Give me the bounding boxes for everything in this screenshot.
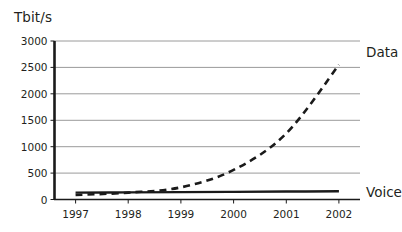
series-label-voice: Voice	[366, 184, 402, 200]
gridlines	[51, 41, 361, 200]
chart-plot-area	[0, 0, 402, 232]
x-axis-tick-label: 1998	[115, 208, 142, 220]
y-axis-tick-label: 1000	[21, 141, 48, 153]
y-axis-tick-label: 2500	[21, 61, 48, 73]
y-axis-tick-label: 0	[41, 194, 48, 206]
x-axis-tick-label: 2001	[273, 208, 300, 220]
x-axis-tick-label: 2000	[220, 208, 247, 220]
x-axis-tick-label: 1997	[62, 208, 89, 220]
series-line-data	[76, 65, 339, 195]
y-axis-tick-label: 2000	[21, 88, 48, 100]
y-axis-tick-label: 1500	[21, 114, 48, 126]
series-label-data: Data	[366, 44, 398, 60]
x-axis-tick-label: 2002	[326, 208, 353, 220]
x-axis-tick-label: 1999	[168, 208, 195, 220]
y-axis-tick-label: 500	[27, 167, 47, 179]
chart-container: Tbit/s 050010001500200025003000 19971998…	[0, 0, 402, 232]
y-axis-tick-label: 3000	[21, 35, 48, 47]
